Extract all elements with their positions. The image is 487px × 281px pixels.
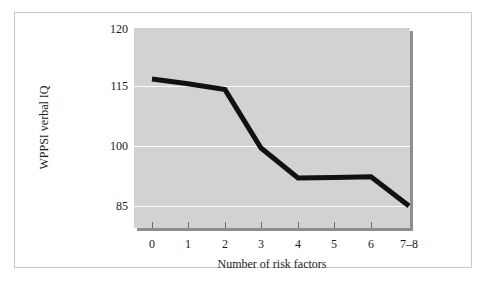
x-tick-label-6: 6 — [351, 238, 391, 250]
x-tick-label-0: 0 — [132, 238, 172, 250]
y-tick-label-115: 115 — [88, 80, 128, 92]
x-tick-mark-6 — [371, 222, 372, 228]
x-tick-mark-2 — [225, 222, 226, 228]
y-axis-tick-labels: 120 115 100 85 — [88, 0, 128, 281]
x-tick-label-7-8: 7–8 — [389, 238, 429, 250]
plot-shadow-right — [410, 31, 413, 231]
plot-area — [134, 28, 410, 228]
y-tick-label-100: 100 — [88, 140, 128, 152]
figure-container: 120 115 100 85 0 1 2 3 4 5 6 7–8 Number … — [0, 0, 487, 281]
line-chart: 120 115 100 85 0 1 2 3 4 5 6 7–8 Number … — [0, 0, 487, 281]
x-tick-label-2: 2 — [205, 238, 245, 250]
x-axis-title: Number of risk factors — [134, 257, 410, 272]
x-tick-label-5: 5 — [314, 238, 354, 250]
y-axis-title: WPPSI verbal IQ — [37, 63, 52, 193]
x-tick-mark-5 — [334, 222, 335, 228]
x-tick-label-1: 1 — [168, 238, 208, 250]
y-tick-label-85: 85 — [88, 200, 128, 212]
x-tick-mark-4 — [298, 222, 299, 228]
x-tick-mark-1 — [188, 222, 189, 228]
data-series-line — [152, 79, 409, 206]
x-tick-label-3: 3 — [241, 238, 281, 250]
y-tick-label-120: 120 — [88, 23, 128, 35]
data-line-svg — [134, 28, 410, 228]
x-tick-mark-3 — [261, 222, 262, 228]
x-tick-label-4: 4 — [278, 238, 318, 250]
plot-shadow-bottom — [137, 228, 413, 231]
x-tick-mark-0 — [152, 222, 153, 228]
